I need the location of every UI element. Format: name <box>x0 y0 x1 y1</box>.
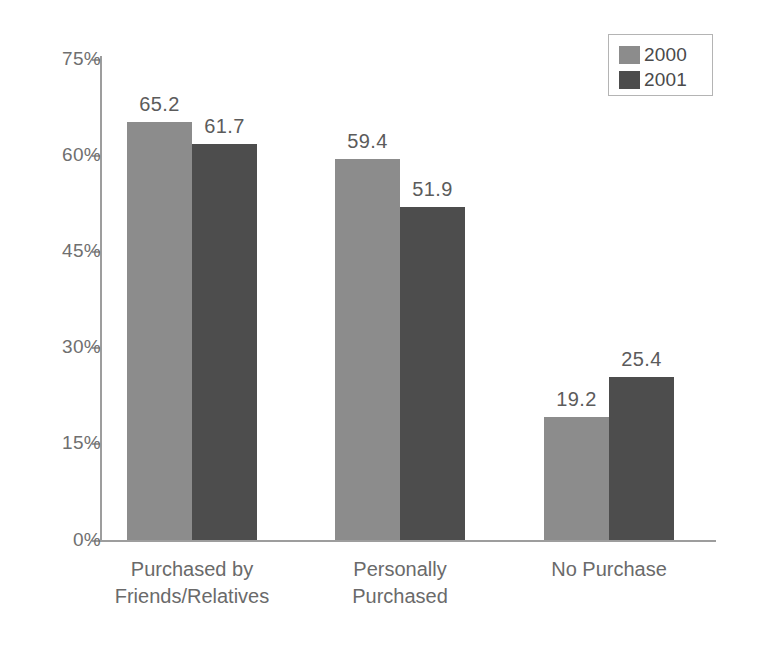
x-category-label-2: No Purchase <box>499 556 719 583</box>
x-category-label-1: Personally Purchased <box>290 556 510 610</box>
y-axis-line <box>100 56 102 542</box>
y-tick-label: 15% <box>35 433 101 452</box>
bar-chart: 75% 60% 45% 30% 15% 0% 65.2 61.7 59.4 51… <box>0 0 763 666</box>
y-tick-label: 0% <box>35 530 101 549</box>
chart-legend: 2000 2001 <box>608 34 713 96</box>
legend-label: 2000 <box>644 45 687 64</box>
legend-item-2001: 2001 <box>619 68 712 91</box>
bar-2001-purchased-by-friends-relatives <box>192 144 257 540</box>
y-tick-label: 45% <box>35 241 101 260</box>
y-tick-label: 30% <box>35 337 101 356</box>
bar-value-label: 65.2 <box>109 94 210 114</box>
bar-value-label: 19.2 <box>526 389 627 409</box>
bar-value-label: 25.4 <box>591 349 692 369</box>
bar-value-label: 59.4 <box>317 131 418 151</box>
y-tick-label: 75% <box>35 49 101 68</box>
legend-label: 2001 <box>644 70 687 89</box>
bar-2000-personally-purchased <box>335 159 400 540</box>
legend-swatch-icon <box>619 46 640 64</box>
bar-value-label: 61.7 <box>174 116 275 136</box>
legend-item-2000: 2000 <box>619 43 712 66</box>
x-axis-line <box>100 540 716 542</box>
legend-swatch-icon <box>619 71 640 89</box>
bar-2000-purchased-by-friends-relatives <box>127 122 192 540</box>
x-category-label-0: Purchased by Friends/Relatives <box>82 556 302 610</box>
bar-2001-personally-purchased <box>400 207 465 540</box>
y-tick-label: 60% <box>35 145 101 164</box>
bar-2000-no-purchase <box>544 417 609 540</box>
bar-value-label: 51.9 <box>382 179 483 199</box>
